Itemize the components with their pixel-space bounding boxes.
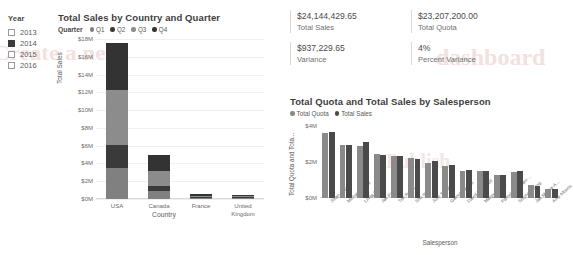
chart1-legend-item-1[interactable]: Q2: [110, 26, 125, 33]
total-sales-by-country-and-quarter-chart[interactable]: Total Sales by Country and Quarter Quart…: [58, 12, 270, 237]
kpi-row-bottom: $937,229.65 Variance 4% Percent Variance: [290, 42, 562, 65]
chart2-bar-total-quota[interactable]: [357, 146, 363, 198]
chart1-segment-q1[interactable]: [232, 198, 254, 199]
chart2-bar-total-quota[interactable]: [374, 154, 380, 198]
chart2-bar-total-quota[interactable]: [477, 171, 483, 198]
checkbox-icon[interactable]: [8, 40, 15, 47]
chart2-bar-total-quota[interactable]: [494, 175, 500, 198]
chart2-bar-total-quota[interactable]: [408, 158, 414, 198]
chart2-bar-total-quota[interactable]: [460, 171, 466, 198]
year-slicer-item-label: 2016: [20, 61, 37, 70]
chart1-segment-q3[interactable]: [106, 90, 128, 145]
chart2-bar-group[interactable]: [460, 126, 472, 198]
chart2-bar-total-sales[interactable]: [346, 145, 352, 198]
chart2-bar-total-quota[interactable]: [322, 133, 328, 198]
chart1-segment-q4[interactable]: [148, 155, 170, 171]
kpi-percent-variance-label: Percent Variance: [418, 54, 510, 65]
chart1-legend-item-2[interactable]: Q3: [131, 26, 146, 33]
year-slicer-item-label: 2013: [20, 28, 37, 37]
chart2-bar-group[interactable]: [425, 126, 437, 198]
chart2-x-axis-label: Salesperson: [320, 239, 560, 246]
chart2-bar-total-quota[interactable]: [391, 156, 397, 198]
chart1-y-tick-label: $8M: [81, 125, 93, 131]
chart1-legend-title: Quarter: [58, 26, 83, 33]
chart1-bar-usa[interactable]: [106, 43, 128, 199]
total-quota-and-sales-by-salesperson-chart[interactable]: Total Quota and Total Sales by Salespers…: [290, 96, 566, 251]
chart2-bar-group[interactable]: [477, 126, 489, 198]
checkbox-icon[interactable]: [8, 51, 15, 58]
chart1-bar-canada[interactable]: [148, 155, 170, 199]
year-slicer[interactable]: Year 2013201420152016: [8, 14, 60, 71]
chart1-segment-q1[interactable]: [106, 168, 128, 199]
chart2-bar-group[interactable]: [391, 126, 403, 198]
chart2-bar-group[interactable]: [408, 126, 420, 198]
chart2-bar-total-sales[interactable]: [449, 165, 455, 198]
chart1-segment-q3[interactable]: [148, 171, 170, 185]
kpi-variance-label: Variance: [297, 54, 389, 65]
chart2-bar-total-quota[interactable]: [340, 145, 346, 198]
chart2-bar-total-quota[interactable]: [545, 189, 551, 198]
chart1-y-tick-label: $0M: [81, 196, 93, 202]
year-slicer-item-2014[interactable]: 2014: [8, 38, 60, 49]
chart1-y-tick-label: $4M: [81, 160, 93, 166]
kpi-variance[interactable]: $937,229.65 Variance: [290, 42, 389, 65]
chart2-legend-item-0[interactable]: Total Quota: [290, 110, 329, 117]
chart1-x-tick-label: France: [180, 203, 222, 211]
chart2-bar-total-quota[interactable]: [425, 163, 431, 198]
chart1-y-tick-label: $12M: [78, 89, 93, 95]
chart2-bar-group[interactable]: [528, 126, 540, 198]
chart1-segment-q2[interactable]: [106, 145, 128, 168]
chart1-x-tick-label: Canada: [138, 203, 180, 211]
chart2-bar-group[interactable]: [545, 126, 557, 198]
chart2-bar-total-sales[interactable]: [415, 159, 421, 198]
chart2-legend-item-1[interactable]: Total Sales: [335, 110, 372, 117]
chart2-bar-group[interactable]: [494, 126, 506, 198]
chart1-bar-france[interactable]: [190, 194, 212, 199]
chart1-segment-q1[interactable]: [190, 198, 212, 199]
chart2-title: Total Quota and Total Sales by Salespers…: [290, 96, 566, 107]
kpi-total-quota-value: $23,207,200.00: [418, 10, 510, 22]
kpi-percent-variance-value: 4%: [418, 42, 510, 54]
chart2-bar-group[interactable]: [511, 126, 523, 198]
chart2-bar-total-sales[interactable]: [329, 132, 335, 198]
kpi-percent-variance[interactable]: 4% Percent Variance: [411, 42, 510, 65]
chart2-bar-total-sales[interactable]: [432, 161, 438, 198]
kpi-total-sales[interactable]: $24,144,429.65 Total Sales: [290, 10, 389, 33]
chart1-y-tick-label: $10M: [78, 107, 93, 113]
chart1-bar-united-kingdom[interactable]: [232, 195, 254, 199]
legend-swatch-icon: [110, 27, 115, 32]
chart2-bar-total-sales[interactable]: [380, 155, 386, 198]
checkbox-icon[interactable]: [8, 62, 15, 69]
kpi-total-quota[interactable]: $23,207,200.00 Total Quota: [411, 10, 510, 33]
year-slicer-item-2015[interactable]: 2015: [8, 49, 60, 60]
chart2-bar-group[interactable]: [357, 126, 369, 198]
chart2-bar-group[interactable]: [340, 126, 352, 198]
legend-swatch-icon: [131, 27, 136, 32]
year-slicer-item-2016[interactable]: 2016: [8, 60, 60, 71]
checkbox-icon[interactable]: [8, 29, 15, 36]
year-slicer-item-2013[interactable]: 2013: [8, 27, 60, 38]
chart2-y-tick-label: $0M: [305, 195, 317, 201]
chart1-legend-item-3[interactable]: Q4: [152, 26, 167, 33]
chart2-bar-total-quota[interactable]: [442, 166, 448, 198]
kpi-total-quota-label: Total Quota: [418, 22, 510, 33]
chart1-gridline: [96, 199, 264, 200]
chart2-bar-group[interactable]: [442, 126, 454, 198]
chart2-bar-total-sales[interactable]: [397, 156, 403, 198]
chart2-bar-total-quota[interactable]: [511, 172, 517, 198]
chart1-y-tick-label: $14M: [78, 72, 93, 78]
chart2-bar-group[interactable]: [322, 126, 334, 198]
chart2-legend-label: Total Quota: [297, 110, 329, 117]
chart1-segment-q4[interactable]: [106, 43, 128, 89]
chart2-bar-total-quota[interactable]: [528, 185, 534, 198]
chart2-y-axis-label: Total Quota and Tota...: [288, 133, 295, 196]
chart2-y-tick-label: $2M: [305, 159, 317, 165]
kpi-total-sales-label: Total Sales: [297, 22, 389, 33]
chart1-x-tick-label: USA: [96, 203, 138, 211]
chart2-bar-total-sales[interactable]: [363, 142, 369, 198]
chart1-segment-q1[interactable]: [148, 191, 170, 199]
chart2-bar-group[interactable]: [374, 126, 386, 198]
year-slicer-item-label: 2014: [20, 39, 37, 48]
kpi-variance-value: $937,229.65: [297, 42, 389, 54]
chart1-legend-item-0[interactable]: Q1: [90, 26, 105, 33]
